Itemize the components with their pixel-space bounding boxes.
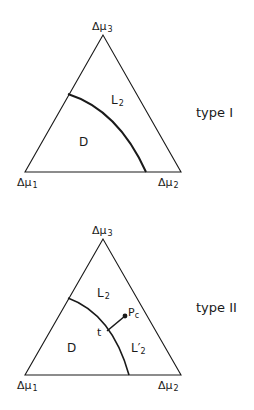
triangle-outline bbox=[25, 35, 181, 172]
vertex-label-right: Δμ2 bbox=[158, 176, 179, 190]
phase-boundary-curve bbox=[68, 94, 146, 172]
region-label-D: D bbox=[79, 135, 88, 149]
point-label-t: t bbox=[97, 326, 102, 339]
vertex-label-left: Δμ1 bbox=[17, 379, 38, 393]
vertex-label-top: Δμ3 bbox=[92, 20, 113, 34]
type-label: type II bbox=[196, 300, 237, 315]
triangle-outline bbox=[25, 239, 181, 375]
critical-point-marker bbox=[123, 314, 128, 319]
vertex-label-right: Δμ2 bbox=[158, 379, 179, 393]
vertex-label-left: Δμ1 bbox=[17, 176, 38, 190]
point-label-Pc: Pc bbox=[128, 306, 139, 320]
region-label-L2: L2 bbox=[111, 93, 124, 108]
region-label-L2-prime: L′2 bbox=[131, 341, 146, 356]
diagram-type-2: Δμ3 Δμ1 Δμ2 L2 D L′2 t Pc type II bbox=[17, 224, 237, 393]
vertex-label-top: Δμ3 bbox=[92, 224, 113, 238]
region-label-D: D bbox=[67, 341, 76, 355]
critical-line bbox=[107, 316, 125, 331]
diagram-type-1: Δμ3 Δμ1 Δμ2 L2 D type I bbox=[17, 20, 233, 190]
type-label: type I bbox=[196, 105, 233, 120]
phase-diagrams: Δμ3 Δμ1 Δμ2 L2 D type I Δμ3 Δμ1 Δμ2 L2 D… bbox=[0, 0, 254, 410]
region-label-L2: L2 bbox=[97, 286, 110, 301]
